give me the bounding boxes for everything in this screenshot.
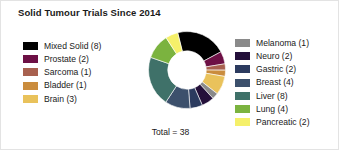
- legend-item-label: Liver (8): [256, 92, 288, 101]
- legend-item-label: Mixed Solid (8): [44, 42, 101, 51]
- legend-item[interactable]: Melanoma (1): [235, 37, 310, 49]
- legend-swatch-icon: [235, 39, 250, 47]
- legend-swatch-icon: [235, 92, 250, 100]
- chart-title: Solid Tumour Trials Since 2014: [18, 7, 161, 18]
- legend-item-label: Pancreatic (2): [256, 118, 310, 127]
- legend-item-label: Melanoma (1): [256, 39, 309, 48]
- legend-item-label: Breast (4): [256, 78, 294, 87]
- legend-item[interactable]: Breast (4): [235, 77, 310, 89]
- legend-item[interactable]: Gastric (2): [235, 63, 310, 75]
- legend-item[interactable]: Sarcoma (1): [23, 66, 101, 78]
- legend-right-column: Melanoma (1)Neuro (2)Gastric (2)Breast (…: [235, 37, 310, 128]
- total-label: Total = 38: [1, 127, 339, 137]
- chart-figure: Solid Tumour Trials Since 2014 Mixed Sol…: [0, 0, 339, 150]
- donut-chart-svg: [148, 31, 226, 109]
- legend-item[interactable]: Mixed Solid (8): [23, 40, 101, 52]
- legend-item[interactable]: Brain (3): [23, 93, 101, 105]
- legend-swatch-icon: [235, 52, 250, 60]
- legend-item[interactable]: Liver (8): [235, 90, 310, 102]
- legend-swatch-icon: [23, 55, 38, 63]
- legend-item-label: Brain (3): [44, 95, 77, 104]
- legend-swatch-icon: [23, 82, 38, 90]
- donut-chart: [148, 31, 226, 109]
- legend-swatch-icon: [23, 95, 38, 103]
- legend-item[interactable]: Neuro (2): [235, 50, 310, 62]
- legend-item-label: Neuro (2): [256, 52, 292, 61]
- legend-swatch-icon: [235, 105, 250, 113]
- legend-swatch-icon: [235, 79, 250, 87]
- legend-item[interactable]: Lung (4): [235, 103, 310, 115]
- legend-item-label: Bladder (1): [44, 81, 87, 90]
- legend-left-column: Mixed Solid (8)Prostate (2)Sarcoma (1)Bl…: [23, 40, 101, 105]
- legend-item-label: Prostate (2): [44, 55, 89, 64]
- legend-item[interactable]: Prostate (2): [23, 53, 101, 65]
- legend-swatch-icon: [23, 42, 38, 50]
- legend-item-label: Lung (4): [256, 105, 288, 114]
- legend-item-label: Gastric (2): [256, 65, 296, 74]
- legend-item[interactable]: Bladder (1): [23, 80, 101, 92]
- legend-swatch-icon: [235, 65, 250, 73]
- legend-swatch-icon: [23, 68, 38, 76]
- legend-swatch-icon: [235, 118, 250, 126]
- legend-item-label: Sarcoma (1): [44, 68, 91, 77]
